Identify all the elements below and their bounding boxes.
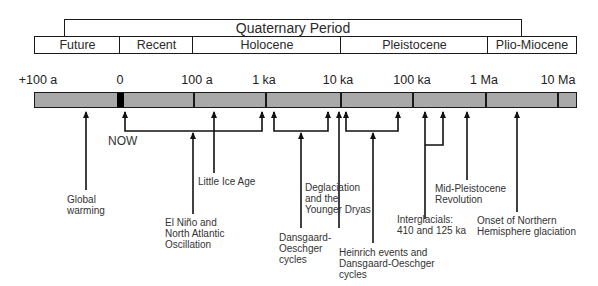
- label-mid-pleistocene: Mid-PleistoceneRevolution: [435, 183, 506, 205]
- label-onset-nh-glaciation: Onset of NorthernHemisphere glaciation: [477, 215, 576, 237]
- label-el-nino: El Niño andNorth AtlanticOscillation: [165, 217, 224, 250]
- now-label: NOW: [108, 134, 137, 148]
- label-little-ice-age: Little Ice Age: [198, 176, 255, 187]
- label-heinrich-events: Heinrich events andDansgaard-Oeschgercyc…: [339, 247, 435, 280]
- bracket-now-1ka: [125, 112, 262, 131]
- bracket-1ka-10ka: [274, 112, 328, 131]
- label-deglaciation: Deglaciationand theYounger Dryas: [305, 182, 371, 215]
- label-dansgaard-oeschger: Dansgaard-Oeschgercycles: [279, 232, 331, 265]
- label-interglacials: Interglacials:410 and 125 ka: [397, 214, 466, 236]
- label-global-warming: Globalwarming: [67, 194, 105, 216]
- bracket-10ka-100ka: [346, 112, 398, 131]
